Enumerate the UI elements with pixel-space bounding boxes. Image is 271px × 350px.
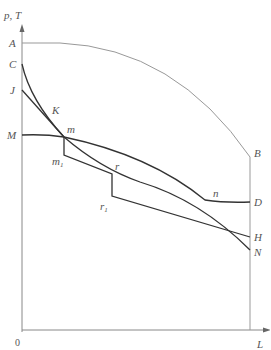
x-axis-label: L [256, 338, 263, 350]
step-line-m-h [64, 137, 250, 237]
y-axis-label: p, T [3, 9, 22, 21]
axes [20, 24, 271, 333]
label-j: J [10, 84, 16, 96]
label-b: B [254, 147, 261, 159]
curve-a-b [22, 43, 250, 157]
label-n: N [253, 246, 262, 258]
pressure-temperature-length-diagram: p, T L 0 A C J M B D H N K m m1 r r1 n [0, 0, 270, 350]
y-axis-arrow-icon [20, 24, 25, 32]
label-n-point: n [213, 187, 219, 199]
label-k: K [51, 104, 60, 116]
label-m1: m1 [52, 155, 63, 169]
label-d: D [253, 196, 262, 208]
x-axis-arrow-icon [263, 328, 270, 333]
label-m: m [67, 123, 75, 135]
label-r: r [115, 160, 120, 172]
label-c: C [9, 58, 17, 70]
label-a: A [8, 37, 16, 49]
label-m-left: M [6, 129, 17, 141]
label-r1: r1 [100, 200, 108, 214]
label-h: H [253, 231, 263, 243]
origin-label: 0 [15, 337, 20, 348]
